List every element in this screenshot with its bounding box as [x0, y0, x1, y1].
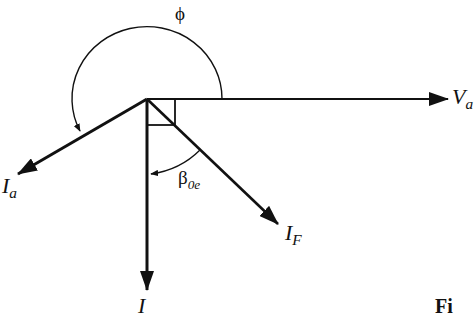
beta-label-main: β: [178, 167, 188, 188]
va-label: Va: [452, 86, 473, 112]
phi-symbol: ϕ: [175, 3, 185, 24]
ia-label: Ia: [2, 175, 17, 201]
if-label-sub: F: [292, 231, 301, 248]
figure-caption-fragment: Fi: [435, 296, 453, 316]
if-vector: [147, 99, 278, 224]
i-vertical-label: I: [138, 295, 145, 317]
phi-label: ϕ: [175, 4, 185, 23]
i-vertical-label-main: I: [138, 293, 145, 317]
figure-caption-text: Fi: [435, 295, 453, 317]
beta-label: β0e: [178, 168, 200, 191]
va-label-main: V: [452, 84, 465, 109]
ia-vector: [18, 99, 147, 174]
beta-label-sub: 0e: [188, 177, 201, 192]
if-label: IF: [285, 222, 302, 248]
ia-label-sub: a: [9, 184, 17, 201]
va-label-sub: a: [465, 95, 473, 112]
